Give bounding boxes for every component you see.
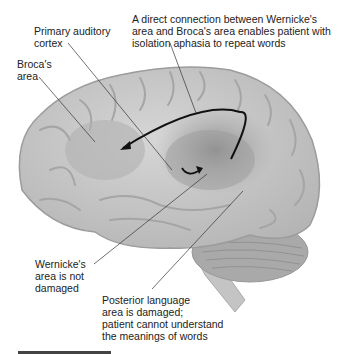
- label-primary-auditory-cortex: Primary auditory cortex: [34, 25, 110, 49]
- label-wernickes-area: Wernicke's area is not damaged: [35, 258, 86, 294]
- label-brocas-area: Broca's area: [17, 58, 52, 82]
- label-direct-connection: A direct connection between Wernicke's a…: [132, 13, 331, 49]
- brocas-region-shading: [65, 120, 145, 180]
- label-posterior-language-area: Posterior language area is damaged; pati…: [102, 294, 223, 342]
